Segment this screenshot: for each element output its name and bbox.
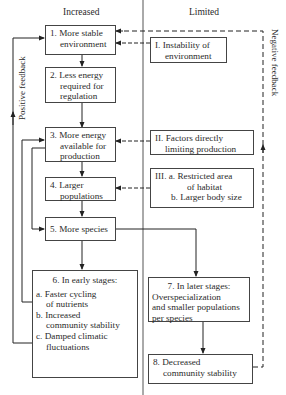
- box-III-habitat-body-size: III. a. Restricted area of habitat b. La…: [150, 168, 254, 208]
- item-text: community stability: [36, 320, 134, 331]
- box-text: environment: [155, 51, 222, 62]
- item-text: of nutrients: [36, 299, 134, 310]
- item-letter: a.: [36, 289, 42, 299]
- box-2-less-energy: 2. Less energy required for regulation: [45, 67, 116, 103]
- negative-feedback-label: Negative feedback: [270, 29, 280, 96]
- item-letter: b.: [171, 192, 178, 202]
- item-text: Restricted area: [177, 171, 232, 181]
- box-text: Larger: [59, 180, 83, 190]
- box-text: community stability: [153, 368, 248, 379]
- box-I-instability: I. Instability of environment: [150, 37, 227, 63]
- box-3-more-energy: 3. More energy available for production: [45, 127, 116, 162]
- box-text: limiting production: [155, 144, 249, 155]
- positive-feedback-label: Positive feedback: [17, 56, 27, 120]
- item-text: Larger body size: [180, 192, 242, 202]
- box-number: 5.: [50, 224, 57, 234]
- header-increased: Increased: [63, 7, 99, 17]
- box-text: per species: [152, 313, 246, 324]
- item-text: Faster cycling: [45, 289, 97, 299]
- item-letter: a.: [169, 171, 175, 181]
- box-text: Less energy: [59, 70, 103, 80]
- box-text: regulation: [50, 91, 111, 102]
- item-letter: c.: [36, 331, 42, 341]
- box-number: 3.: [50, 130, 57, 140]
- box-6-early-stages: 6. In early stages: a. Faster cycling of…: [32, 270, 138, 378]
- box-title: 7. In later stages:: [152, 281, 246, 292]
- item-letter: b.: [36, 310, 43, 320]
- box-text: Overspecialization: [152, 292, 246, 303]
- box-text: More stable: [59, 28, 103, 38]
- box-number: II.: [155, 133, 163, 143]
- box-text: Instability of: [163, 40, 210, 50]
- box-II-limiting-factors: II. Factors directly limiting production: [150, 130, 254, 155]
- box-text: and smaller populations: [152, 302, 246, 313]
- box-text: available for: [50, 141, 111, 152]
- box-text: populations: [50, 191, 111, 202]
- box-text: Decreased: [162, 357, 200, 367]
- box-text: Factors directly: [166, 133, 223, 143]
- box-8-decreased-stability: 8. Decreased community stability: [148, 354, 253, 384]
- box-number: 1.: [50, 28, 57, 38]
- box-number: 2.: [50, 70, 57, 80]
- box-title: 6. In early stages:: [36, 275, 134, 286]
- item-text: Increased: [45, 310, 80, 320]
- box-7-later-stages: 7. In later stages: Overspecialization a…: [148, 277, 250, 322]
- box-4-larger-populations: 4. Larger populations: [45, 177, 116, 201]
- box-text: environment: [50, 39, 111, 50]
- box-text: More species: [59, 224, 108, 234]
- item-text: fluctuations: [36, 342, 134, 353]
- box-text: production: [50, 151, 111, 162]
- feedback-diagram: Increased Limited Positive feedback Nega…: [0, 0, 286, 395]
- box-number: I.: [155, 40, 160, 50]
- box-text: required for: [50, 81, 111, 92]
- box-number: 8.: [153, 357, 160, 367]
- box-text: More energy: [59, 130, 106, 140]
- item-text: Damped climatic: [45, 331, 108, 341]
- box-number: III.: [155, 171, 166, 181]
- item-text: of habitat: [155, 182, 249, 193]
- box-5-more-species: 5. More species: [45, 217, 116, 241]
- box-number: 4.: [50, 180, 57, 190]
- box-1-more-stable-environment: 1. More stable environment: [45, 25, 116, 55]
- header-limited: Limited: [189, 7, 219, 17]
